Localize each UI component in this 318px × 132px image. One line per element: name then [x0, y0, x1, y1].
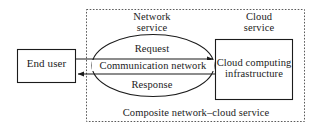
cloud-infrastructure-label-line1: Cloud computing [215, 57, 293, 68]
cloud-service-label-line1: Cloud [224, 11, 294, 22]
network-service-label-line1: Network [110, 11, 194, 22]
cloud-service-label: Cloud service [224, 11, 294, 33]
response-label: Response [113, 79, 191, 90]
end-user-label: End user [17, 58, 76, 70]
network-service-label-line2: service [110, 22, 194, 33]
request-label: Request [113, 43, 191, 54]
network-service-label: Network service [110, 11, 194, 33]
communication-network-label: Communication network [92, 60, 214, 71]
cloud-infrastructure-label: Cloud computing infrastructure [215, 57, 293, 79]
cloud-infrastructure-label-line2: infrastructure [215, 68, 293, 79]
composite-service-caption: Composite network–cloud service [96, 107, 296, 118]
diagram-canvas: End user Cloud computing infrastructure … [0, 0, 318, 132]
cloud-service-label-line2: service [224, 22, 294, 33]
